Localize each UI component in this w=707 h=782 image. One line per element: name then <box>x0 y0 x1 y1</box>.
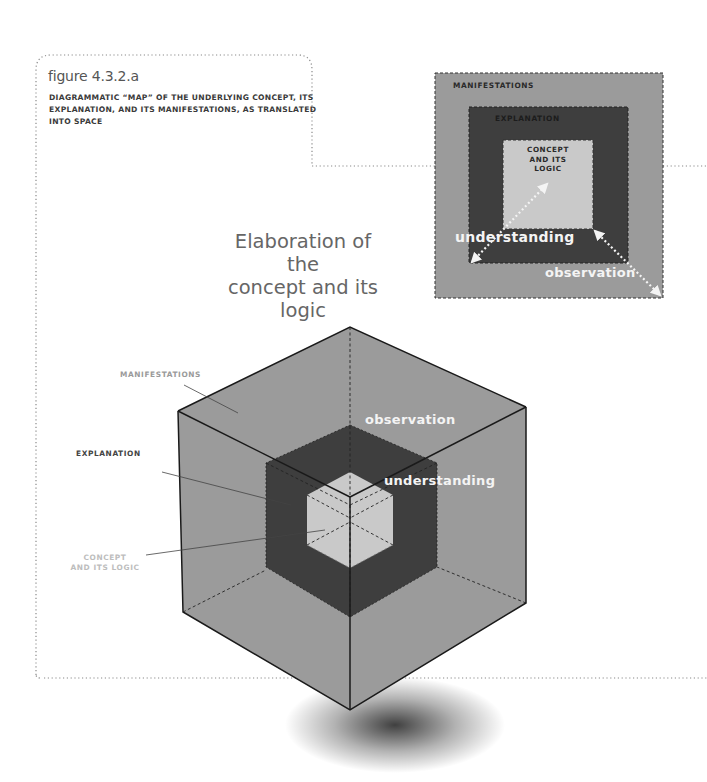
heading-line: concept and its <box>218 276 388 299</box>
box-concept-line: CONCEPT <box>508 145 588 155</box>
heading-line: logic <box>218 299 388 322</box>
label-manifestations: MANIFESTATIONS <box>120 370 201 380</box>
box-label-concept: CONCEPT AND ITS LOGIC <box>508 145 588 174</box>
box-observation-label: observation <box>545 265 636 280</box>
box-label-manifestations: MANIFESTATIONS <box>453 81 534 91</box>
box-understanding-label: understanding <box>455 229 575 245</box>
figure-number: figure 4.3.2.a <box>48 68 139 84</box>
diagram-heading: Elaboration of the concept and its logic <box>218 230 388 322</box>
label-concept-line: CONCEPT <box>62 553 148 563</box>
figure-canvas: figure 4.3.2.a DIAGRAMMATIC “MAP” OF THE… <box>0 0 707 782</box>
label-explanation: EXPLANATION <box>76 449 141 459</box>
figure-caption: DIAGRAMMATIC “MAP” OF THE UNDERLYING CON… <box>49 92 319 128</box>
cube-observation-label: observation <box>365 412 456 427</box>
heading-line: Elaboration of the <box>218 230 388 276</box>
box-label-explanation: EXPLANATION <box>495 114 560 124</box>
cube-understanding-label: understanding <box>384 473 495 488</box>
label-concept: CONCEPT AND ITS LOGIC <box>62 553 148 573</box>
box-concept-line: AND ITS <box>508 155 588 165</box>
box-concept-line: LOGIC <box>508 164 588 174</box>
label-concept-line: AND ITS LOGIC <box>62 563 148 573</box>
